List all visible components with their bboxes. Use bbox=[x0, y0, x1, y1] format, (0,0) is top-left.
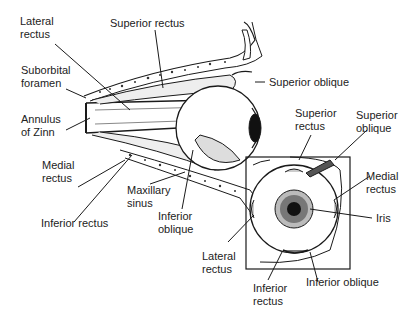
label-line: rectus bbox=[253, 295, 287, 308]
label-line: Suborbital bbox=[21, 64, 71, 77]
label-line: rectus bbox=[366, 183, 398, 196]
label-superior-oblique: Superior oblique bbox=[269, 76, 349, 89]
pupil bbox=[287, 202, 301, 216]
label-front-superior-oblique: Superior oblique bbox=[356, 109, 398, 135]
label-line: rectus bbox=[295, 120, 337, 133]
label-line: sinus bbox=[127, 197, 170, 210]
label-front-medial-rectus: Medial rectus bbox=[366, 170, 398, 196]
cornea-side bbox=[249, 114, 261, 142]
label-maxillary-sinus: Maxillary sinus bbox=[127, 184, 170, 210]
label-line: oblique bbox=[158, 223, 193, 236]
label-line: Superior bbox=[295, 107, 337, 120]
label-front-lateral-rectus: Lateral rectus bbox=[202, 250, 236, 276]
label-line: Annulus bbox=[21, 113, 61, 126]
label-line: Maxillary bbox=[127, 184, 170, 197]
label-line: oblique bbox=[356, 122, 398, 135]
label-inferior-rectus: Inferior rectus bbox=[41, 217, 108, 230]
label-line: of Zinn bbox=[21, 126, 61, 139]
label-line: Superior bbox=[356, 109, 398, 122]
label-line: Lateral bbox=[202, 250, 236, 263]
label-line: foramen bbox=[21, 77, 71, 90]
label-annulus-of-zinn: Annulus of Zinn bbox=[21, 113, 61, 139]
label-line: Medial bbox=[42, 159, 74, 172]
label-superior-rectus: Superior rectus bbox=[110, 17, 185, 30]
label-front-iris: Iris bbox=[376, 212, 391, 225]
label-front-inferior-rectus: Inferior rectus bbox=[253, 282, 287, 308]
label-medial-rectus: Medial rectus bbox=[42, 159, 74, 185]
label-front-superior-rectus: Superior rectus bbox=[295, 107, 337, 133]
label-inferior-oblique: Inferior oblique bbox=[158, 210, 193, 236]
label-lateral-rectus: Lateral rectus bbox=[20, 15, 54, 41]
label-suborbital-foramen: Suborbital foramen bbox=[21, 64, 71, 90]
label-line: rectus bbox=[42, 172, 74, 185]
label-front-inferior-oblique: Inferior oblique bbox=[306, 276, 379, 289]
label-line: rectus bbox=[202, 263, 236, 276]
label-line: Inferior bbox=[253, 282, 287, 295]
label-line: rectus bbox=[20, 28, 54, 41]
label-line: Inferior bbox=[158, 210, 193, 223]
label-line: Lateral bbox=[20, 15, 54, 28]
label-line: Medial bbox=[366, 170, 398, 183]
